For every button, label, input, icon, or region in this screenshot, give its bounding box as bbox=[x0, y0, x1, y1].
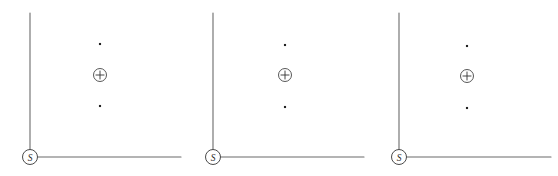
marker-upper-dot bbox=[284, 44, 286, 46]
origin-label: S bbox=[397, 153, 402, 163]
marker-upper-dot bbox=[466, 45, 468, 47]
diagram-surface: S bbox=[0, 0, 186, 176]
marker-lower-dot bbox=[466, 107, 468, 109]
diagram-panel-1: S bbox=[0, 0, 186, 176]
marker-upper-dot bbox=[99, 43, 101, 45]
diagram-panel-2: S bbox=[186, 0, 372, 176]
origin-source-marker: S bbox=[392, 150, 407, 165]
diagram-surface: S bbox=[186, 0, 372, 176]
marker-lower-dot bbox=[99, 105, 101, 107]
origin-label: S bbox=[28, 153, 33, 163]
marker-center-plus bbox=[461, 70, 474, 83]
figure-canvas: SSS bbox=[0, 0, 558, 176]
origin-source-marker: S bbox=[23, 150, 38, 165]
diagram-panel-3: S bbox=[372, 0, 558, 176]
marker-center-plus bbox=[94, 69, 107, 82]
marker-center-plus bbox=[279, 69, 292, 82]
marker-lower-dot bbox=[284, 106, 286, 108]
origin-source-marker: S bbox=[206, 150, 221, 165]
origin-label: S bbox=[211, 153, 216, 163]
diagram-surface: S bbox=[372, 0, 558, 176]
